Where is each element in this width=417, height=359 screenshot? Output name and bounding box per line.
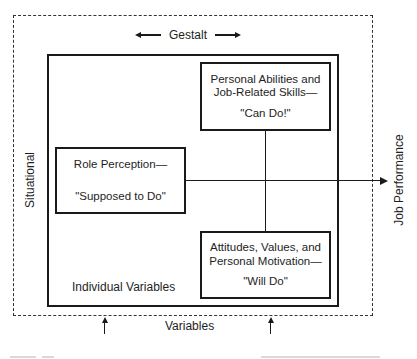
connector-vertical: [265, 131, 266, 231]
variables-label: Variables: [165, 319, 214, 333]
arrow-right-icon: [215, 34, 239, 35]
connector-to-job-performance: [186, 180, 382, 181]
arrow-up-icon: [270, 320, 271, 334]
role-title: Role Perception—: [74, 158, 167, 172]
will-do-title-1: Attitudes, Values, and: [210, 241, 321, 255]
arrowhead-right-icon: [380, 177, 388, 185]
role-perception-box: Role Perception— "Supposed to Do": [55, 147, 186, 214]
job-performance-label: Job Performance: [392, 130, 406, 230]
arrow-up-icon: [104, 320, 105, 334]
arrow-left-icon: [137, 34, 161, 35]
can-do-quote: "Can Do!": [240, 107, 290, 121]
can-do-title-2: Job-Related Skills—: [214, 86, 318, 100]
will-do-quote: "Will Do": [243, 275, 288, 289]
can-do-title-1: Personal Abilities and: [211, 73, 321, 87]
can-do-box: Personal Abilities and Job-Related Skill…: [200, 62, 331, 131]
role-quote: "Supposed to Do": [75, 190, 166, 204]
situational-label: Situational: [23, 145, 37, 215]
gestalt-label: Gestalt: [169, 28, 207, 42]
will-do-title-2: Personal Motivation—: [209, 255, 322, 269]
will-do-box: Attitudes, Values, and Personal Motivati…: [200, 231, 331, 299]
gestalt-label-row: Gestalt: [137, 27, 239, 43]
individual-variables-label: Individual Variables: [72, 280, 175, 294]
